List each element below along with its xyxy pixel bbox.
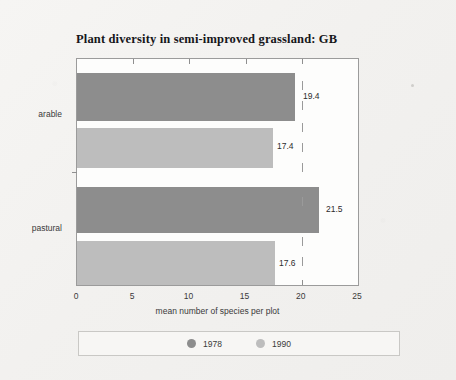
legend-label-1978: 1978 bbox=[203, 339, 222, 349]
legend-items: 1978 1990 bbox=[79, 332, 399, 355]
x-tick-label-25: 25 bbox=[352, 291, 361, 301]
dash-mark-5 bbox=[302, 163, 303, 172]
tick-top-20 bbox=[302, 59, 303, 64]
dash-mark-3 bbox=[302, 123, 303, 132]
x-tick-label-0: 0 bbox=[74, 291, 79, 301]
bar-value-arable-1978: 19.4 bbox=[303, 91, 320, 101]
tick-y-separator bbox=[72, 172, 77, 173]
dash-mark-4 bbox=[302, 143, 303, 152]
paper-speck bbox=[411, 84, 414, 87]
x-axis-label: mean number of species per plot bbox=[76, 306, 359, 316]
chart-title: Plant diversity in semi-improved grassla… bbox=[76, 32, 337, 47]
legend-swatch-circle-icon bbox=[256, 339, 265, 348]
legend-label-1990: 1990 bbox=[272, 339, 291, 349]
dash-mark-6 bbox=[302, 197, 303, 206]
bar-pastural-1978 bbox=[77, 187, 319, 233]
bar-value-arable-1990: 17.4 bbox=[277, 141, 294, 151]
legend-entry-1978[interactable]: 1978 bbox=[187, 339, 222, 349]
x-tick-label-20: 20 bbox=[296, 291, 305, 301]
bar-arable-1978 bbox=[77, 73, 295, 121]
legend-box: 1978 1990 bbox=[78, 331, 400, 356]
x-tick-label-10: 10 bbox=[184, 291, 193, 301]
dash-mark-7 bbox=[302, 237, 303, 246]
dash-mark-1 bbox=[302, 81, 303, 90]
tick-top-10 bbox=[189, 59, 190, 64]
x-tick-label-15: 15 bbox=[240, 291, 249, 301]
y-tick-label-arable: arable bbox=[10, 109, 62, 119]
bar-arable-1990 bbox=[77, 128, 273, 168]
x-tick-label-5: 5 bbox=[130, 291, 135, 301]
bar-value-pastural-1978: 21.5 bbox=[326, 204, 343, 214]
tick-bottom-20 bbox=[302, 280, 303, 285]
dash-mark-8 bbox=[302, 257, 303, 266]
bar-value-pastural-1990: 17.6 bbox=[279, 258, 296, 268]
plot-inner: 19.4 17.4 21.5 17.6 bbox=[77, 59, 358, 285]
figure-canvas: Plant diversity in semi-improved grassla… bbox=[0, 0, 456, 380]
legend-entry-1990[interactable]: 1990 bbox=[256, 339, 291, 349]
y-tick-label-pastural: pastural bbox=[10, 223, 62, 233]
legend-swatch-circle-icon bbox=[187, 339, 196, 348]
tick-top-5 bbox=[133, 59, 134, 64]
plot-area: 19.4 17.4 21.5 17.6 bbox=[76, 58, 359, 286]
bar-pastural-1990 bbox=[77, 241, 275, 285]
dash-mark-2 bbox=[302, 101, 303, 110]
tick-top-15 bbox=[246, 59, 247, 64]
